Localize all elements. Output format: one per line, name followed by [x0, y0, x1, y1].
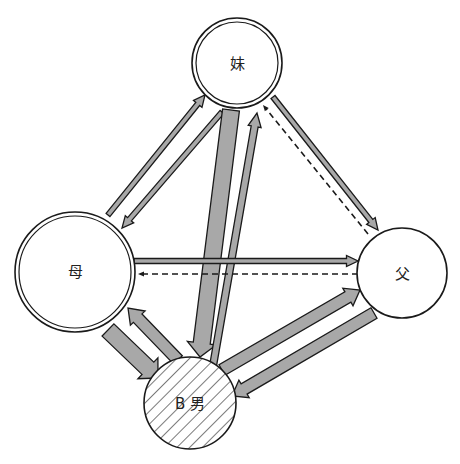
node-b-male[interactable]: B 男	[144, 357, 236, 449]
node-mother-label: 母	[68, 263, 83, 281]
edge-father-to-mother-arrowhead	[138, 272, 144, 277]
edges-layer	[102, 95, 378, 398]
edge-father-to-mother	[138, 272, 358, 277]
node-mother[interactable]: 母	[15, 212, 135, 332]
edge-mother-to-sister	[106, 95, 205, 217]
node-sister[interactable]: 妹	[192, 18, 282, 108]
edge-father-to-sister-arrowhead	[263, 105, 269, 111]
node-sister-label: 妹	[230, 55, 245, 73]
edge-sister-to-father	[271, 96, 378, 231]
edge-father-to-sister-line	[266, 108, 368, 234]
edge-father-to-sister	[263, 105, 368, 234]
edge-sister-to-mother	[122, 110, 224, 228]
node-father[interactable]: 父	[357, 228, 447, 318]
family-relationship-diagram: 妹 母 父 B 男	[0, 0, 460, 464]
edge-mother-to-father	[134, 256, 358, 267]
node-father-label: 父	[395, 265, 410, 283]
node-b-male-label: B 男	[175, 395, 205, 413]
